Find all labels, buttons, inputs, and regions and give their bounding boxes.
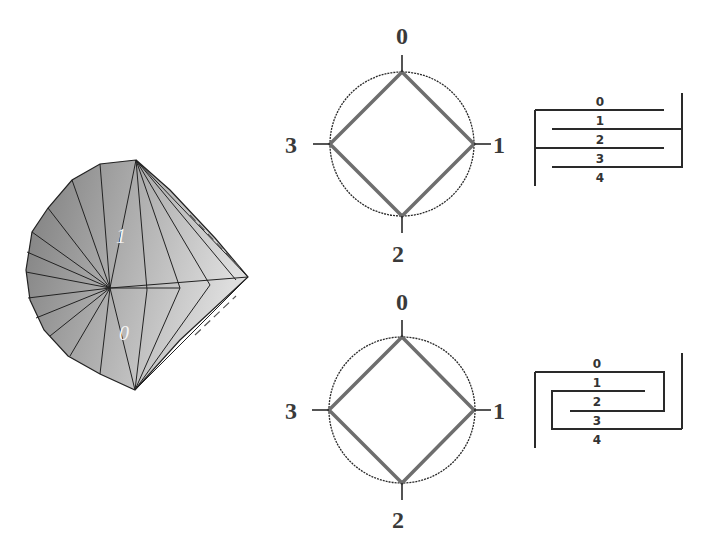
strip-label-4: 4 xyxy=(593,433,601,447)
vertex-label-right: 1 xyxy=(493,398,505,424)
circle xyxy=(330,72,474,216)
strip-lines xyxy=(535,93,682,186)
vertex-label-top: 0 xyxy=(396,289,408,315)
strip-label-3: 3 xyxy=(593,414,601,428)
strip-label-4: 4 xyxy=(596,171,604,185)
strip-label-1: 1 xyxy=(596,114,604,128)
circle-diagram-bottom: 0 1 2 3 xyxy=(285,289,505,533)
strip-label-2: 2 xyxy=(593,395,601,409)
strip-label-0: 0 xyxy=(593,357,601,371)
strip-label-0: 0 xyxy=(596,95,604,109)
vertex-label-top: 0 xyxy=(396,23,408,49)
vertex-label-bottom: 2 xyxy=(392,241,404,267)
circle-diagram-top: 0 1 2 3 xyxy=(285,23,505,267)
cone-label-0: 0 xyxy=(119,322,129,344)
circle xyxy=(329,337,475,483)
strip-label-1: 1 xyxy=(593,376,601,390)
strip-label-2: 2 xyxy=(596,133,604,147)
strip-label-3: 3 xyxy=(596,152,604,166)
vertex-label-bottom: 2 xyxy=(392,507,404,533)
cone-surface xyxy=(26,160,248,390)
vertex-label-right: 1 xyxy=(493,132,505,158)
cone-label-1: 1 xyxy=(116,225,126,247)
diagram-canvas: 1 0 0 1 2 3 0 1 2 3 4 xyxy=(0,0,704,551)
strip-diagram-top: 0 1 2 3 4 xyxy=(535,93,682,186)
folded-cone: 1 0 xyxy=(26,160,248,390)
vertex-label-left: 3 xyxy=(285,132,297,158)
tick-marks xyxy=(313,55,491,233)
tick-marks xyxy=(312,320,491,500)
vertex-label-left: 3 xyxy=(285,398,297,424)
strip-lines xyxy=(535,353,682,448)
strip-diagram-bottom: 0 1 2 3 4 xyxy=(535,353,682,448)
square-diamond xyxy=(330,72,474,216)
